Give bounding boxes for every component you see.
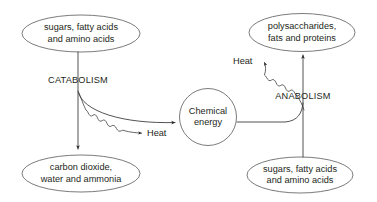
anabolism-output-line2: fats and proteins: [268, 33, 336, 43]
anabolism-input-line2: and amino acids: [267, 175, 334, 185]
node-anabolism-input: sugars, fatty acids and amino acids: [247, 157, 353, 193]
catabolism-input-line2: and amino acids: [48, 34, 115, 44]
node-catabolism-input: sugars, fatty acids and amino acids: [22, 15, 140, 52]
chemical-energy-line2: energy: [194, 117, 222, 127]
chemical-energy-line1: Chemical: [189, 106, 227, 116]
node-catabolism-output: carbon dioxide, water and ammonia: [22, 155, 140, 192]
catabolism-input-line1: sugars, fatty acids: [44, 22, 118, 32]
metabolism-diagram: sugars, fatty acids and amino acids CATA…: [0, 0, 377, 202]
catabolism-to-chemical-energy-arrow: [78, 91, 175, 123]
label-anabolism: ANABOLISM: [275, 91, 330, 101]
diagram-canvas: sugars, fatty acids and amino acids CATA…: [0, 0, 377, 202]
label-anabolism-heat: Heat: [233, 56, 253, 66]
node-anabolism-output: polysaccharides, fats and proteins: [249, 14, 355, 52]
node-chemical-energy: Chemical energy: [180, 89, 237, 146]
anabolism-heat-wavy-arrow: [264, 63, 304, 111]
chemical-energy-to-anabolism-line: [237, 103, 303, 122]
catabolism-output-line1: carbon dioxide,: [50, 162, 112, 172]
catabolism-output-line2: water and ammonia: [40, 174, 123, 184]
label-catabolism: CATABOLISM: [48, 75, 108, 85]
label-catabolism-heat: Heat: [147, 128, 167, 138]
anabolism-output-line1: polysaccharides,: [268, 21, 336, 31]
anabolism-input-line1: sugars, fatty acids: [263, 164, 337, 174]
catabolism-heat-wavy-arrow: [79, 93, 142, 133]
